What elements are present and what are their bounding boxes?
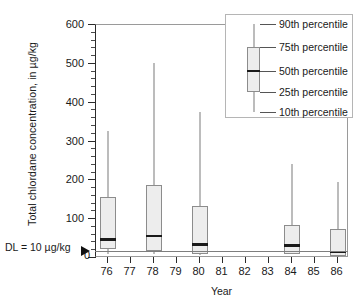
x-tick-label-83: 83 xyxy=(256,265,280,277)
boxplot-76 xyxy=(100,25,116,258)
legend-leader-line xyxy=(260,92,276,93)
box-iqr xyxy=(100,197,116,250)
y-tick-label-100: 100 xyxy=(44,212,84,224)
x-tick-80 xyxy=(199,257,200,263)
x-tick-label-86: 86 xyxy=(325,265,349,277)
median-line xyxy=(146,235,162,238)
whisker-upper xyxy=(107,131,108,197)
whisker-upper xyxy=(291,164,292,225)
x-tick-82 xyxy=(245,257,246,263)
legend-leader-line xyxy=(260,24,276,25)
x-tick-83 xyxy=(268,257,269,263)
whisker-lower xyxy=(199,254,200,255)
legend-label-50: 50th percentile xyxy=(279,64,348,78)
y-tick-label-400: 400 xyxy=(44,96,84,108)
x-tick-label-76: 76 xyxy=(95,265,119,277)
whisker-upper xyxy=(337,182,338,229)
x-tick-86 xyxy=(337,257,338,263)
legend-whisker-upper xyxy=(253,24,254,47)
x-tick-label-79: 79 xyxy=(164,265,188,277)
y-tick-label-300: 300 xyxy=(44,135,84,147)
y-tick-label-600: 600 xyxy=(44,18,84,30)
detection-limit-label: DL = 10 µg/kg xyxy=(5,241,71,253)
x-tick-81 xyxy=(222,257,223,263)
median-line xyxy=(100,238,116,241)
legend-label-75: 75th percentile xyxy=(279,40,348,54)
legend-leader-line xyxy=(260,112,276,113)
x-tick-label-80: 80 xyxy=(187,265,211,277)
box-iqr xyxy=(146,185,162,251)
legend-label-25: 25th percentile xyxy=(279,85,348,99)
legend-median-line xyxy=(247,70,260,73)
legend-sample-box xyxy=(247,24,260,112)
x-tick-76 xyxy=(107,257,108,263)
y-tick-label-200: 200 xyxy=(44,173,84,185)
x-tick-84 xyxy=(291,257,292,263)
x-tick-79 xyxy=(176,257,177,263)
detection-limit-line xyxy=(95,251,348,252)
legend-label-10: 10th percentile xyxy=(279,105,348,119)
x-tick-label-82: 82 xyxy=(233,265,257,277)
whisker-upper xyxy=(153,63,154,185)
y-tick-label-500: 500 xyxy=(44,57,84,69)
x-tick-78 xyxy=(153,257,154,263)
box-iqr xyxy=(284,225,300,254)
x-axis-label: Year xyxy=(95,285,348,297)
legend-label-90: 90th percentile xyxy=(279,17,348,31)
y-axis-label: Total chlordane concentration, in µg/kg xyxy=(26,34,38,234)
box-iqr xyxy=(192,206,208,254)
x-tick-85 xyxy=(314,257,315,263)
median-line xyxy=(192,243,208,246)
x-tick-label-77: 77 xyxy=(118,265,142,277)
x-tick-label-85: 85 xyxy=(302,265,326,277)
y-axis-zero-label: 0 xyxy=(84,249,90,261)
whisker-upper xyxy=(199,112,200,206)
x-tick-77 xyxy=(130,257,131,263)
legend-whisker-lower xyxy=(253,92,254,112)
boxplot-80 xyxy=(192,25,208,258)
legend-leader-line xyxy=(260,47,276,48)
boxplot-78 xyxy=(146,25,162,258)
legend-leader-line xyxy=(260,71,276,72)
x-tick-label-78: 78 xyxy=(141,265,165,277)
boxplot-figure: Total chlordane concentration, in µg/kg … xyxy=(0,0,359,307)
x-tick-label-81: 81 xyxy=(210,265,234,277)
legend: 90th percentile75th percentile50th perce… xyxy=(225,14,353,118)
median-line xyxy=(284,244,300,247)
x-tick-label-84: 84 xyxy=(279,265,303,277)
